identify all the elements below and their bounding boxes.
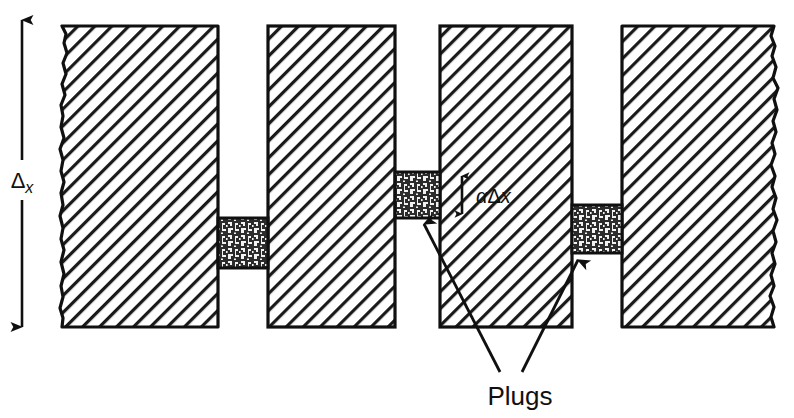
plugs-label: Plugs <box>487 381 552 411</box>
plug-1 <box>218 218 268 268</box>
block-second <box>268 26 395 327</box>
block-right-body <box>622 26 778 327</box>
plug-2 <box>395 172 440 218</box>
plug-3 <box>572 205 622 253</box>
delta-x-symbol: Δ <box>11 168 26 193</box>
block-right <box>622 26 778 327</box>
diagram-canvas: Δx αΔx Plugs <box>0 0 794 418</box>
alpha-delta-x-label: αΔx <box>476 185 512 207</box>
plug-1-body <box>218 218 268 268</box>
block-left <box>60 26 218 327</box>
plug-2-body <box>395 172 440 218</box>
block-left-body <box>60 26 218 327</box>
block-second-body <box>268 26 395 327</box>
delta-x-subscript: x <box>24 179 34 196</box>
alpha-x-symbol: x <box>500 185 512 207</box>
block-third-body <box>440 26 572 327</box>
alpha-symbol: α <box>476 185 488 207</box>
plugs-diagram-figure: Δx αΔx Plugs <box>0 0 794 418</box>
block-third <box>440 26 572 327</box>
plug-3-body <box>572 205 622 253</box>
alpha-delta-symbol: Δ <box>487 185 500 207</box>
